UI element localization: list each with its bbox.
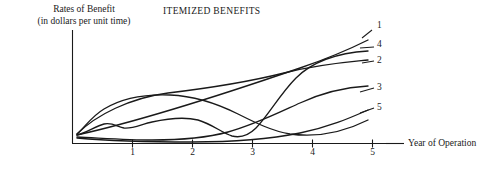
curve-1 (77, 40, 368, 135)
leader-2 (362, 61, 374, 63)
x-tick-label-3: 3 (245, 147, 261, 157)
curve-2-tail (77, 60, 368, 134)
curve-end-label-1: 1 (377, 20, 391, 30)
x-axis-title: Year of Operation (408, 138, 476, 148)
leader-4 (360, 47, 374, 48)
leader-3 (360, 88, 374, 92)
curve-end-label-3: 3 (377, 82, 391, 92)
x-tick-label-4: 4 (305, 147, 321, 157)
curve-2-rising-branch (77, 60, 368, 134)
curve-end-label-4: 4 (377, 39, 391, 49)
curves-group (77, 40, 368, 142)
curve-5 (77, 110, 368, 142)
curve-end-label-2: 2 (377, 55, 391, 65)
leader-1 (362, 30, 372, 38)
x-tick-label-2: 2 (185, 147, 201, 157)
curve-2 (77, 95, 368, 135)
curve-end-label-5: 5 (377, 102, 391, 112)
chart-figure: Rates of Benefit (in dollars per unit ti… (0, 0, 502, 172)
leader-5 (360, 108, 374, 113)
x-tick-label-1: 1 (125, 147, 141, 157)
x-tick-label-5: 5 (365, 147, 381, 157)
